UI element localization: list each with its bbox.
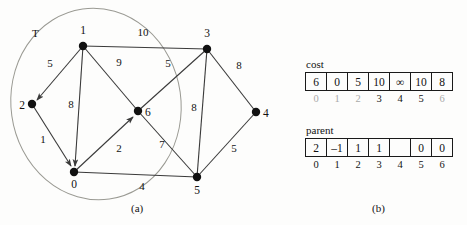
cost-index-3: 3 <box>369 91 390 107</box>
edge-weight-1-6: 9 <box>116 56 122 68</box>
cost-index-1: 1 <box>327 91 348 107</box>
cost-cell-4: ∞ <box>390 73 411 91</box>
edge-weight-2-0: 1 <box>40 133 46 145</box>
parent-array-index-row: 0 1 2 3 4 5 6 <box>306 157 453 173</box>
parent-cell-5: 0 <box>411 139 432 157</box>
parent-cell-3: 1 <box>369 139 390 157</box>
node-label-2: 2 <box>19 99 25 111</box>
node-4[interactable] <box>252 108 260 116</box>
cost-cell-2: 5 <box>348 73 369 91</box>
edge-0-5 <box>74 172 197 177</box>
edge-weight-0-6: 2 <box>116 142 122 154</box>
graph-diagram: T 10 5 9 8 1 2 4 5 8 8 <box>0 0 300 210</box>
parent-cell-4 <box>390 139 411 157</box>
figure-page: T 10 5 9 8 1 2 4 5 8 8 <box>0 0 467 225</box>
edge-4-5 <box>197 112 256 177</box>
edge-weight-6-5: 7 <box>159 138 165 150</box>
cost-array-block: cost 6 0 5 10 ∞ 10 8 0 1 2 3 4 5 6 <box>305 58 453 106</box>
cost-cell-6: 8 <box>432 73 453 91</box>
node-6[interactable] <box>134 107 142 115</box>
parent-index-1: 1 <box>327 157 348 173</box>
node-group <box>28 42 260 181</box>
edge-1-3 <box>83 46 207 49</box>
parent-array-values-row: 2 –1 1 1 0 0 <box>306 139 453 157</box>
node-1[interactable] <box>79 42 87 50</box>
edge-6-5 <box>138 111 197 177</box>
parent-index-0: 0 <box>306 157 327 173</box>
node-label-5: 5 <box>194 184 200 196</box>
edge-weight-1-0: 8 <box>68 98 74 110</box>
cost-index-2: 2 <box>348 91 369 107</box>
cost-cell-3: 10 <box>369 73 390 91</box>
node-label-3: 3 <box>204 27 210 39</box>
node-label-group: 0 1 2 3 4 5 6 <box>19 24 269 196</box>
node-5[interactable] <box>193 173 201 181</box>
caption-b: (b) <box>372 202 385 214</box>
node-label-4: 4 <box>263 107 269 119</box>
node-label-0: 0 <box>71 178 77 190</box>
edge-1-2 <box>37 46 83 100</box>
cost-cell-0: 6 <box>306 73 327 91</box>
parent-cell-6: 0 <box>432 139 453 157</box>
parent-array-title: parent <box>306 124 453 136</box>
edge-weight-1-2: 5 <box>47 57 53 69</box>
edge-group <box>32 46 256 177</box>
cost-cell-5: 10 <box>411 73 432 91</box>
parent-index-3: 3 <box>369 157 390 173</box>
edge-0-6 <box>74 117 133 172</box>
parent-cell-1: –1 <box>327 139 348 157</box>
parent-cell-2: 1 <box>348 139 369 157</box>
node-3[interactable] <box>203 45 211 53</box>
node-2[interactable] <box>28 100 36 108</box>
edge-weight-3-4: 8 <box>236 59 242 71</box>
edge-1-0 <box>75 46 83 166</box>
parent-index-2: 2 <box>348 157 369 173</box>
edge-3-5 <box>197 49 207 177</box>
parent-array-block: parent 2 –1 1 1 0 0 0 1 2 3 4 5 6 <box>305 124 453 172</box>
edge-3-4 <box>207 49 256 112</box>
cost-array-title: cost <box>306 58 453 70</box>
edge-weight-0-5: 4 <box>139 180 145 192</box>
cost-array-index-row: 0 1 2 3 4 5 6 <box>306 91 453 107</box>
node-label-6: 6 <box>145 106 151 118</box>
caption-a: (a) <box>131 202 143 214</box>
parent-index-4: 4 <box>390 157 411 173</box>
parent-cell-0: 2 <box>306 139 327 157</box>
node-label-1: 1 <box>80 24 86 36</box>
parent-index-6: 6 <box>432 157 453 173</box>
cost-index-6: 6 <box>432 91 453 107</box>
edge-weight-3-5: 8 <box>191 101 197 113</box>
edge-1-6 <box>83 46 138 111</box>
cost-index-4: 4 <box>390 91 411 107</box>
edge-2-0 <box>32 104 71 166</box>
node-0[interactable] <box>70 168 78 176</box>
cost-cell-1: 0 <box>327 73 348 91</box>
cost-index-5: 5 <box>411 91 432 107</box>
edge-weight-3-6: 5 <box>165 57 171 69</box>
edge-weight-1-3: 10 <box>138 26 150 38</box>
parent-index-5: 5 <box>411 157 432 173</box>
set-t-label: T <box>32 27 39 39</box>
cost-index-0: 0 <box>306 91 327 107</box>
cost-array-values-row: 6 0 5 10 ∞ 10 8 <box>306 73 453 91</box>
cost-array-table: 6 0 5 10 ∞ 10 8 0 1 2 3 4 5 6 <box>305 72 453 106</box>
edge-weight-4-5: 5 <box>231 142 237 154</box>
parent-array-table: 2 –1 1 1 0 0 0 1 2 3 4 5 6 <box>305 138 453 172</box>
